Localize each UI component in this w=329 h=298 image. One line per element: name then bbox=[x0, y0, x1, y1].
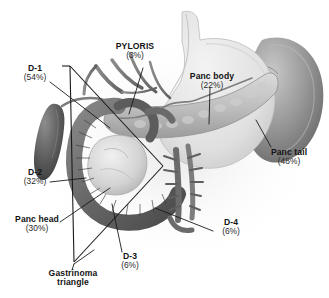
label-d4-percent: (6%) bbox=[212, 227, 250, 236]
label-d3-percent: (6%) bbox=[110, 261, 150, 270]
label-d1-percent: (54%) bbox=[12, 73, 58, 82]
label-gastrinoma-triangle: Gastrinoma triangle bbox=[36, 269, 110, 287]
label-d2-percent: (32%) bbox=[12, 177, 58, 186]
label-d4: D-4 (6%) bbox=[212, 218, 250, 236]
leader-gastrinoma-triangle-2 bbox=[74, 250, 94, 264]
label-panc-head: Panc head (30%) bbox=[6, 215, 68, 233]
label-d2: D-2 (32%) bbox=[12, 168, 58, 186]
label-panc-head-percent: (30%) bbox=[6, 224, 68, 233]
label-pyloris-percent: (3%) bbox=[104, 51, 166, 60]
label-gastrinoma-triangle-line2: triangle bbox=[36, 278, 110, 287]
label-pyloris: PYLORIS (3%) bbox=[104, 42, 166, 60]
label-panc-body: Panc body (22%) bbox=[181, 72, 243, 90]
label-panc-tail-percent: (48%) bbox=[258, 157, 320, 166]
label-panc-tail: Panc tail (48%) bbox=[258, 148, 320, 166]
pancreas-head-shape bbox=[88, 135, 147, 195]
label-d1: D-1 (54%) bbox=[12, 64, 58, 82]
label-d3: D-3 (6%) bbox=[110, 252, 150, 270]
label-panc-body-percent: (22%) bbox=[181, 81, 243, 90]
figure-canvas: D-1 (54%) PYLORIS (3%) Panc body (22%) P… bbox=[0, 0, 329, 298]
